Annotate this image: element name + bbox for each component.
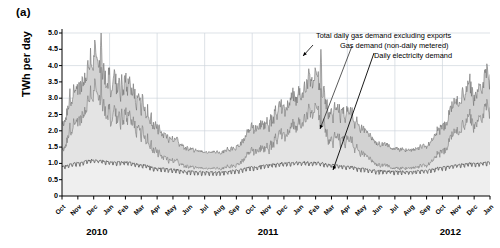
annotation-total-gas: Total daily gas demand excluding exports [316, 32, 451, 41]
year-label-2011: 2011 [258, 226, 279, 237]
year-label-2010: 2010 [86, 226, 107, 237]
y-tick-1-5: 1.5 [32, 143, 58, 150]
y-tick-0: 0 [32, 192, 58, 199]
chart-figure: (a) TWh per day 5.04.54.03.53.02.52.01.5… [0, 0, 500, 248]
y-tick-1-0: 1.0 [32, 160, 58, 167]
y-tick-2-5: 2.5 [32, 111, 58, 118]
annotation-ndm-gas: Gas demand (non-daily metered) [340, 42, 448, 51]
y-tick-3-5: 3.5 [32, 78, 58, 85]
y-tick-0-5: 0.5 [32, 176, 58, 183]
y-tick-4-0: 4.0 [32, 62, 58, 69]
annotation-electricity: Daily electricity demand [374, 52, 452, 61]
year-label-2012: 2012 [440, 226, 461, 237]
y-tick-5-0: 5.0 [32, 29, 58, 36]
y-tick-3-0: 3.0 [32, 95, 58, 102]
y-tick-2-0: 2.0 [32, 127, 58, 134]
y-tick-4-5: 4.5 [32, 46, 58, 53]
